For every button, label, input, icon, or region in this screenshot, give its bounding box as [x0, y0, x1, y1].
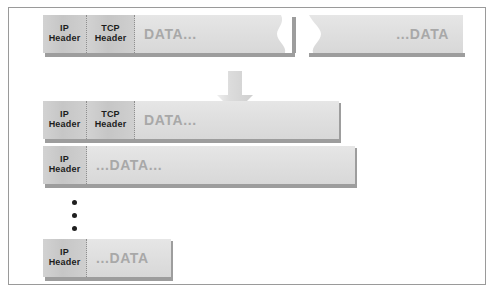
row2-ip-header: IP Header — [43, 101, 87, 139]
row2-shadow — [45, 139, 341, 143]
row2-tcp-header-line2: Header — [95, 120, 127, 130]
row1-ip-header-line2: Header — [49, 34, 81, 44]
row3-ip-header-line2: Header — [49, 165, 81, 175]
ellipsis-dot-1 — [72, 200, 77, 205]
row1-left-shadow — [45, 53, 295, 57]
row1-right-shadow — [309, 53, 465, 57]
row1-data-start-label: DATA... — [135, 26, 197, 42]
diagram-frame: IP Header TCP Header DATA... — [8, 7, 486, 285]
row1-data-start: DATA... — [135, 15, 301, 53]
row4-ip-header: IP Header — [43, 239, 87, 277]
row2-data: DATA... — [135, 101, 339, 139]
row3-data: ...DATA... — [87, 146, 355, 184]
row4-data: ...DATA — [87, 239, 171, 277]
row1-tcp-header: TCP Header — [87, 15, 135, 53]
row2-tcp-header: TCP Header — [87, 101, 135, 139]
row1-data-end-label: ...DATA — [396, 15, 449, 53]
ellipsis-dot-3 — [72, 226, 77, 231]
row3-ip-header: IP Header — [43, 146, 87, 184]
row2-data-label: DATA... — [135, 112, 197, 128]
row3-shadow — [45, 184, 357, 188]
row4-ip-header-line2: Header — [49, 258, 81, 268]
row1-tcp-header-line2: Header — [95, 34, 127, 44]
row1-ip-header: IP Header — [43, 15, 87, 53]
row4-data-label: ...DATA — [87, 250, 149, 266]
row3-data-label: ...DATA... — [87, 157, 162, 173]
ellipsis-dot-2 — [72, 213, 77, 218]
row4-shadow — [45, 277, 173, 281]
row2-ip-header-line2: Header — [49, 120, 81, 130]
row1-data-end: ...DATA — [301, 15, 463, 53]
